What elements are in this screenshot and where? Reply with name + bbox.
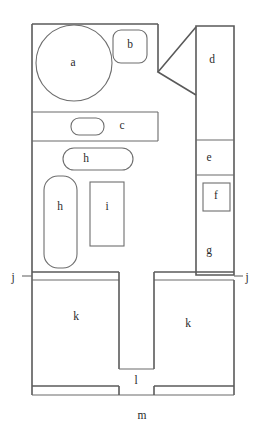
floor-plan-figure: a b c d e f g h h i j j k k l m [0,0,261,444]
room-label-j-left: j [10,271,14,284]
room-label-i: i [105,200,108,212]
room-label-k-right: k [185,317,191,329]
room-label-c: c [119,119,124,131]
right-block-walls [196,26,234,275]
room-label-h-tall: h [57,200,63,212]
room-label-g: g [206,244,212,257]
room-label-f: f [214,189,218,201]
room-label-b: b [127,38,133,50]
room-label-a: a [70,56,75,68]
room-label-m: m [138,409,147,421]
room-h-wide-fixture [63,148,133,170]
room-c-band [32,112,158,141]
lower-section-walls [32,272,234,395]
room-label-k-left: k [73,310,79,322]
floor-plan-svg: a b c d e f g h h i j j k k l m [0,0,261,444]
room-label-h-wide: h [83,152,89,164]
room-label-j-right: j [244,271,248,284]
room-label-l: l [134,374,137,386]
room-label-d: d [209,53,215,65]
figure-bottom-caption [0,431,261,441]
room-h-tall-fixture [44,176,77,268]
room-i-fixture [90,182,124,246]
room-labels: a b c d e f g h h i j j k k l m [10,38,248,421]
room-label-e: e [206,151,211,163]
